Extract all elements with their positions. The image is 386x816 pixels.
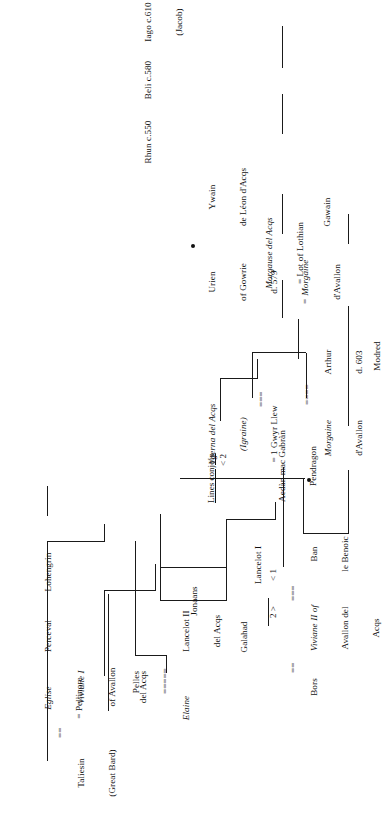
node-eglise: Eglise = Pellinore bbox=[22, 666, 105, 730]
node-urien-line4: = Morgaine bbox=[300, 260, 310, 305]
node-morgaine-arthur-line2: d'Avallon bbox=[354, 407, 364, 469]
node-viviane-ii: Viviane II of Avallon del Acqs bbox=[288, 598, 386, 658]
node-bors-name: Bors bbox=[309, 670, 319, 704]
node-beli-name: Beli c.580 bbox=[143, 53, 153, 107]
node-urien-line5: d'Avallon bbox=[332, 249, 342, 315]
node-pelles-name: Pelles bbox=[131, 660, 141, 704]
connector-line bbox=[282, 94, 283, 134]
node-gawain-name: Gawain bbox=[322, 185, 332, 239]
node-eglise-line2: = Pellinore bbox=[74, 666, 84, 730]
node-eglise-name: Eglise bbox=[43, 686, 53, 709]
connector-line bbox=[298, 319, 299, 359]
node-rhun: Rhun c.550 bbox=[122, 112, 174, 172]
node-ban-name: Ban bbox=[309, 525, 319, 583]
connector-line bbox=[104, 524, 105, 542]
node-taliesin-name: Taliesin bbox=[76, 740, 86, 806]
node-ywain-line2: de Léon d'Acqs bbox=[238, 156, 248, 238]
node-lohengrin: Lohengrin bbox=[22, 539, 74, 605]
node-iago-name: Iago c.610 bbox=[143, 0, 153, 52]
node-modred: Modred bbox=[351, 329, 386, 383]
marker-marriage-1: < 1 bbox=[268, 569, 278, 581]
node-lancelot-i: Lancelot I bbox=[232, 536, 284, 594]
node-lancelot-ii-name: Lancelot II bbox=[181, 598, 191, 664]
node-iago-line2: (Jacob) bbox=[174, 0, 184, 52]
connector-line bbox=[135, 541, 136, 656]
node-morgaine-arthur-name: Morgaine bbox=[323, 420, 333, 456]
node-elaine-name: Elaine bbox=[181, 696, 191, 720]
connector-line bbox=[160, 514, 161, 601]
node-urien-name: Urien bbox=[207, 249, 217, 315]
node-viviane-ii-name: Viviane II of bbox=[309, 605, 319, 651]
node-ban: Ban le Benoic bbox=[288, 525, 371, 583]
node-viviane-ii-line3: Acqs bbox=[371, 598, 381, 658]
node-modred-name: Modred bbox=[372, 329, 382, 383]
node-iago: Iago c.610 (Jacob) bbox=[122, 0, 205, 52]
node-perceval: Perceval bbox=[22, 606, 74, 666]
node-ygerna-line3: = 1 Gwyr Llew bbox=[269, 385, 279, 483]
node-ywain: Ywain de Léon d'Acqs bbox=[186, 156, 269, 238]
node-galahad: Galahad bbox=[218, 608, 270, 666]
connector-line bbox=[47, 486, 48, 516]
lineage-dot-morgaine-arthur bbox=[307, 478, 311, 482]
node-ygerna: Ygerna del Acqs (Igraine) = 1 Gwyr Llew bbox=[186, 385, 300, 483]
node-taliesin-line2: (Great Bard) bbox=[107, 740, 117, 806]
node-rhun-name: Rhun c.550 bbox=[143, 112, 153, 172]
node-urien-line3: d. 579 bbox=[269, 249, 279, 315]
connector-line bbox=[161, 567, 226, 568]
node-lancelot-i-name: Lancelot I bbox=[253, 536, 263, 594]
node-gawain: Gawain bbox=[301, 185, 353, 239]
node-elaine: Elaine bbox=[160, 690, 212, 726]
node-urien: Urien of Gowrie d. 579 = Morgaine d'Aval… bbox=[186, 249, 363, 315]
node-ywain-name: Ywain bbox=[207, 156, 217, 238]
node-arthur-name: Arthur bbox=[323, 339, 333, 385]
connector-line bbox=[155, 564, 156, 591]
node-lohengrin-name: Lohengrin bbox=[43, 539, 53, 605]
node-perceval-name: Perceval bbox=[43, 606, 53, 666]
connector-line bbox=[257, 359, 258, 379]
connector-line bbox=[104, 590, 155, 591]
node-morgaine-arthur: Morgaine d'Avallon bbox=[302, 407, 385, 469]
node-urien-line2: of Gowrie bbox=[238, 249, 248, 315]
node-ygerna-name: Ygerna del Acqs bbox=[207, 404, 217, 465]
connector-line bbox=[226, 520, 227, 568]
connector-line bbox=[226, 568, 227, 601]
node-ygerna-line2: (Igraine) bbox=[238, 417, 248, 451]
connector-line bbox=[282, 26, 283, 68]
node-beli: Beli c.580 bbox=[122, 53, 174, 107]
node-pelles: Pelles bbox=[110, 660, 162, 704]
node-galahad-name: Galahad bbox=[239, 608, 249, 666]
lineage-dot-urien bbox=[191, 244, 195, 248]
node-taliesin: Taliesin (Great Bard) bbox=[55, 740, 138, 806]
node-ban-line2: le Benoic bbox=[340, 525, 350, 583]
node-viviane-ii-line2: Avallon del bbox=[340, 598, 350, 658]
node-bors: Bors bbox=[288, 670, 340, 704]
marriage-equals-arthur: ==== bbox=[302, 384, 312, 405]
